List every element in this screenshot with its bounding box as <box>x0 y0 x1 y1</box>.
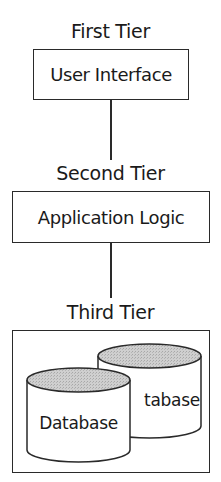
database-label-back: tabase <box>144 390 200 410</box>
database-label-front: Database <box>39 413 118 433</box>
database-cylinder-front: Database <box>27 368 130 462</box>
database-cylinders: tabase Database <box>0 0 221 482</box>
